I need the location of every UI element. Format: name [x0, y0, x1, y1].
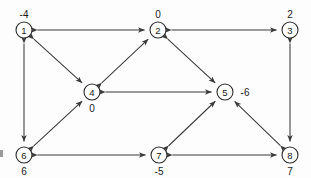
- graph-edge-4-2: [102, 39, 148, 83]
- node-value-label-4: 0: [89, 103, 95, 114]
- node-value-label-2: 0: [155, 9, 161, 20]
- node-id-label-4: 4: [89, 87, 94, 98]
- node-id-label-3: 3: [287, 25, 292, 36]
- node-id-label-7: 7: [156, 150, 161, 161]
- node-value-label-8: 7: [287, 166, 293, 177]
- graph-edge-7-5: [169, 101, 216, 145]
- node-id-label-8: 8: [287, 150, 292, 161]
- node-value-label-5: -6: [241, 87, 250, 98]
- graph-edge-1-4: [34, 39, 82, 83]
- graph-node-2[interactable]: 20: [150, 9, 166, 39]
- graph-node-5[interactable]: 5-6: [217, 84, 250, 100]
- node-value-label-1: -4: [20, 9, 29, 20]
- graph-node-8[interactable]: 87: [282, 147, 298, 177]
- graph-figure: 1-42032405-6667-587: [0, 0, 311, 178]
- edges-layer: [24, 30, 290, 155]
- node-value-label-6: 6: [21, 166, 27, 177]
- graph-node-6[interactable]: 66: [16, 147, 32, 177]
- graph-edge-2-5: [168, 39, 215, 83]
- edge-speck-top: [243, 29, 247, 31]
- node-id-label-5: 5: [222, 87, 227, 98]
- graph-node-1[interactable]: 1-4: [16, 9, 32, 39]
- node-id-label-6: 6: [21, 150, 26, 161]
- node-id-label-1: 1: [21, 25, 26, 36]
- graph-node-7[interactable]: 7-5: [151, 147, 167, 177]
- node-value-label-7: -5: [155, 166, 164, 177]
- node-value-label-3: 2: [287, 9, 293, 20]
- graph-edge-6-4: [34, 101, 82, 146]
- edge-speck-left: [0, 150, 3, 157]
- graph-node-3[interactable]: 32: [282, 9, 298, 39]
- node-id-label-2: 2: [155, 25, 160, 36]
- graph-node-4[interactable]: 40: [84, 84, 100, 114]
- graph-canvas: 1-42032405-6667-587: [0, 0, 311, 178]
- graph-edge-8-5: [235, 101, 281, 145]
